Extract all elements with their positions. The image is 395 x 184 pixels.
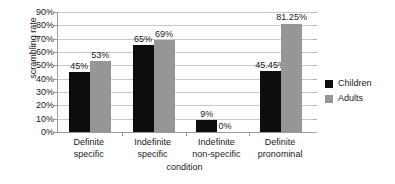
y-axis-tick-label: 0% [20,128,54,137]
chart-legend: ChildrenAdults [325,76,372,106]
y-axis-tick-mark-right [313,39,317,40]
bar-value-label: 0% [218,122,242,131]
x-axis-tick-mark [249,132,250,136]
y-axis-tick-mark-right [313,79,317,80]
bar-group: 45.45%81.25% [260,12,302,132]
bar-value-label: 53% [88,51,112,60]
bar-value-label: 69% [152,30,176,39]
y-axis-tick-mark-right [313,52,317,53]
legend-swatch-icon [325,80,333,88]
y-axis-tick-mark-right [313,12,317,13]
y-axis-tick-label: 50% [20,61,54,70]
y-axis-tick-mark [54,25,58,26]
y-axis-tick-label: 90% [20,8,54,17]
bar-adults [90,61,111,132]
y-axis-tick-mark [54,92,58,93]
x-axis-category-label-line: Definite [242,137,318,149]
x-axis-tick-mark [186,132,187,136]
y-axis-tick-mark [54,132,58,133]
y-axis-tick-mark [54,12,58,13]
y-axis-tick-mark-right [313,105,317,106]
bar-adults [154,40,175,132]
bar-children [196,120,217,132]
y-axis-tick-labels: 90%80%70%60%50%40%30%20%10%0% [20,0,54,184]
y-axis-tick-label: 60% [20,48,54,57]
bar-children [260,71,281,132]
x-axis-category-label-line: pronominal [242,149,318,161]
bar-group: 45%53% [69,12,111,132]
y-axis-tick-label: 30% [20,88,54,97]
x-axis-category-label: Definitepronominal [242,137,318,160]
y-axis-tick-label: 70% [20,35,54,44]
y-axis-tick-label: 10% [20,115,54,124]
y-axis-tick-mark [54,79,58,80]
bar-value-label: 81.25% [275,13,309,22]
x-axis-title: condition [57,162,312,172]
y-axis-tick-label: 40% [20,75,54,84]
bar-children [69,72,90,132]
y-axis-tick-label: 80% [20,21,54,30]
bar-chart: scrambling rate 90%80%70%60%50%40%30%20%… [0,0,395,184]
bar-group: 65%69% [133,12,175,132]
y-axis-tick-mark [54,119,58,120]
bar-group: 9%0% [196,12,238,132]
y-axis-tick-mark [54,105,58,106]
legend-label: Children [338,79,372,88]
legend-item-children: Children [325,76,372,91]
legend-item-adults: Adults [325,91,372,106]
x-axis-category-labels: DefinitespecificIndefinitespecificIndefi… [57,137,312,165]
y-axis-tick-mark [54,65,58,66]
legend-label: Adults [338,94,363,103]
y-axis-tick-mark-right [313,132,317,133]
y-axis-tick-label: 20% [20,101,54,110]
bar-value-label: 9% [195,110,219,119]
bar-children [133,45,154,132]
y-axis-tick-mark [54,52,58,53]
legend-swatch-icon [325,95,333,103]
y-axis-tick-mark [54,39,58,40]
plot-area: 45%53%65%69%9%0%45.45%81.25% [57,12,313,133]
bar-adults [281,24,302,132]
x-axis-tick-mark [122,132,123,136]
bar-value-label: 45% [67,62,91,71]
y-axis-tick-mark-right [313,65,317,66]
y-axis-tick-mark-right [313,119,317,120]
y-axis-tick-mark-right [313,92,317,93]
y-axis-tick-mark-right [313,25,317,26]
